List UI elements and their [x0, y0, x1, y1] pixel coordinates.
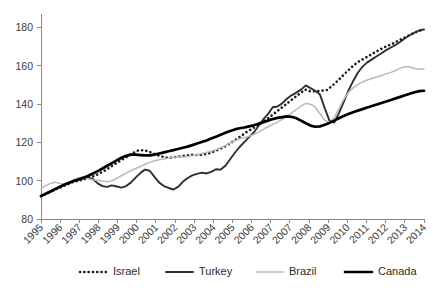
- x-tick-label: 2007: [250, 221, 275, 246]
- x-tick-label: 2000: [116, 221, 141, 246]
- x-tick-label: 2012: [365, 221, 390, 246]
- x-tick-label: 2014: [403, 221, 428, 246]
- x-tick-label: 2010: [327, 221, 352, 246]
- line-chart: 80100120140160180 1995199619971998199920…: [0, 0, 433, 294]
- y-tick-label: 140: [15, 98, 33, 110]
- x-tick-label: 1999: [97, 221, 122, 246]
- x-tick-label: 2002: [154, 221, 179, 246]
- x-tick-label: 2005: [212, 221, 237, 246]
- chart-legend: IsraelTurkeyBrazilCanada: [80, 265, 417, 277]
- y-tick-label: 120: [15, 136, 33, 148]
- x-tick-label: 1998: [78, 221, 103, 246]
- y-tick-label: 180: [15, 21, 33, 33]
- legend-label-brazil[interactable]: Brazil: [289, 265, 317, 277]
- y-tick-label: 80: [21, 213, 33, 225]
- y-tick-label: 160: [15, 60, 33, 72]
- x-tick-label: 2001: [135, 221, 160, 246]
- legend-label-israel[interactable]: Israel: [113, 265, 140, 277]
- x-tick-label: 2007: [269, 221, 294, 246]
- legend-label-turkey[interactable]: Turkey: [199, 265, 233, 277]
- legend-label-canada[interactable]: Canada: [378, 265, 417, 277]
- x-tick-label: 1997: [59, 221, 84, 246]
- x-tick-label: 2013: [384, 221, 409, 246]
- x-tick-label: 2011: [347, 221, 372, 246]
- chart-container: 80100120140160180 1995199619971998199920…: [0, 0, 433, 294]
- y-tick-label: 100: [15, 175, 33, 187]
- figure-caption: [6, 280, 126, 292]
- x-tick-label: 1996: [40, 221, 65, 246]
- series-group: [41, 29, 424, 196]
- x-tick-label: 2009: [308, 221, 333, 246]
- y-axis-tick-group: 80100120140160180: [15, 21, 41, 224]
- x-axis-tick-group: 1995199619971998199920002001200220032004…: [20, 219, 428, 246]
- x-tick-label: 2006: [231, 221, 256, 246]
- x-tick-label: 2004: [193, 221, 218, 246]
- x-tick-label: 2003: [174, 221, 199, 246]
- x-tick-label: 2008: [289, 221, 314, 246]
